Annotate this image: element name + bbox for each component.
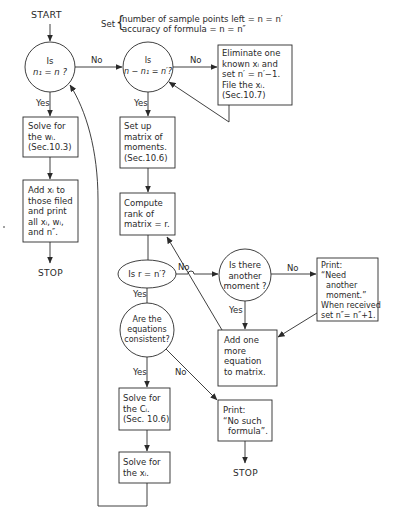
decision2-line1: Is [121,56,175,67]
solve-w-line: (Sec.10.3) [28,142,72,153]
print-need-line: “Need [321,271,381,281]
eliminate-line: known xᵢ and [222,59,280,70]
stop-terminal-left: STOP [38,268,63,278]
solve-c-box: Solve for the Cᵢ. (Sec. 10.6) [123,393,169,425]
setup-note-line2: accuracy of formula = n = n″ [122,24,246,35]
print-no-formula-box: Print: “No such formula”. [223,405,268,437]
add-xi-line: and print [28,206,73,217]
print-no-formula-line: formula”. [223,426,268,437]
solve-x-line: the xᵢ. [123,468,161,479]
eliminate-line: File the xᵢ. [222,80,280,91]
print-need-line: set n″= n″+1. [321,311,381,321]
add-xi-box: Add xᵢ to those filed and print all xᵢ, … [28,185,73,238]
solve-w-box: Solve for the wᵢ. (Sec.10.3) [28,121,72,153]
solve-c-line: (Sec. 10.6) [123,414,169,425]
edge-label-yes-1: Yes [36,98,50,108]
solve-w-line: the wᵢ. [28,132,72,143]
eliminate-line: set n′ = n′−1. [222,69,280,80]
edge-eliminate-return [169,82,229,122]
decision-moment-text: Is there another moment ? [219,260,271,292]
edge-label-yes-5: Yes [133,367,147,377]
print-need-line: When received [321,301,381,311]
decision2-text: Is n − n₁ = n′? [121,56,175,77]
decision1-line1: Is [25,56,75,67]
setup-matrix-line: Set up [124,121,168,132]
solve-w-line: Solve for [28,121,72,132]
stray-dot [3,226,5,228]
decision2-line2: n − n₁ = n′? [121,67,175,78]
setup-matrix-box: Set up matrix of moments. (Sec.10.6) [124,121,168,163]
decision-consistent-line: consistent? [119,335,175,345]
solve-c-line: the Cᵢ. [123,404,169,415]
print-need-line: Print: [321,261,381,271]
edge-addeq-to-rank [167,237,222,330]
setup-note-line1: number of sample points left = n = n′ [122,14,283,25]
decision-moment-line: moment ? [219,281,271,292]
edge-label-no-1: No [91,55,103,65]
decision1-text: Is n₁ = n ? [25,56,75,77]
edge-label-no-3: No [178,262,190,272]
compute-rank-line: Compute [124,198,170,209]
edge-label-yes-4: Yes [229,305,243,315]
eliminate-line: Eliminate one [222,48,280,59]
decision-r-text: Is r = n′? [118,269,176,280]
print-need-box: Print: “Need another moment.” When recei… [321,261,381,321]
print-no-formula-line: Print: [223,405,268,416]
print-need-line: moment.” [321,291,381,301]
edge-label-yes-2: Yes [134,98,148,108]
stop-terminal-right: STOP [233,468,258,478]
edge-label-no-4: No [287,263,299,273]
add-equation-line: to matrix. [224,367,266,378]
flowchart-canvas [0,0,395,519]
print-no-formula-line: “No such [223,416,268,427]
add-xi-line: Add xᵢ to [28,185,73,196]
edge-consistent-no [166,349,217,400]
compute-rank-line: rank of [124,209,170,220]
solve-x-box: Solve for the xᵢ. [123,457,161,478]
solve-c-line: Solve for [123,393,169,404]
add-equation-line: equation [224,356,266,367]
eliminate-box: Eliminate one known xᵢ and set n′ = n′−1… [222,48,280,101]
eliminate-line: (Sec.10.7) [222,90,280,101]
add-xi-line: those filed [28,196,73,207]
start-terminal: START [31,9,62,20]
decision-moment-line: another [219,271,271,282]
edge-printneed-to-addeq [278,313,317,337]
edge-label-no-5: No [175,367,187,377]
compute-rank-box: Compute rank of matrix = r. [124,198,170,230]
solve-x-line: Solve for [123,457,161,468]
print-need-line: another [321,281,381,291]
add-xi-line: all xᵢ, wᵢ, [28,217,73,228]
edge-label-yes-3: Yes [133,289,147,299]
setup-matrix-line: (Sec.10.6) [124,153,168,164]
setup-matrix-line: moments. [124,142,168,153]
decision-consistent-line: Are the [119,315,175,325]
edge-label-no-2: No [190,55,202,65]
decision-consistent-text: Are the equations consistent? [119,315,175,345]
add-equation-box: Add one more equation to matrix. [224,335,266,377]
add-equation-line: more [224,346,266,357]
add-equation-line: Add one [224,335,266,346]
setup-matrix-line: matrix of [124,132,168,143]
add-xi-line: and n″. [28,227,73,238]
compute-rank-line: matrix = r. [124,219,170,230]
setup-note-prefix: Set [101,19,115,30]
decision-consistent-line: equations [119,325,175,335]
decision-moment-line: Is there [219,260,271,271]
decision1-line2: n₁ = n ? [25,67,75,78]
